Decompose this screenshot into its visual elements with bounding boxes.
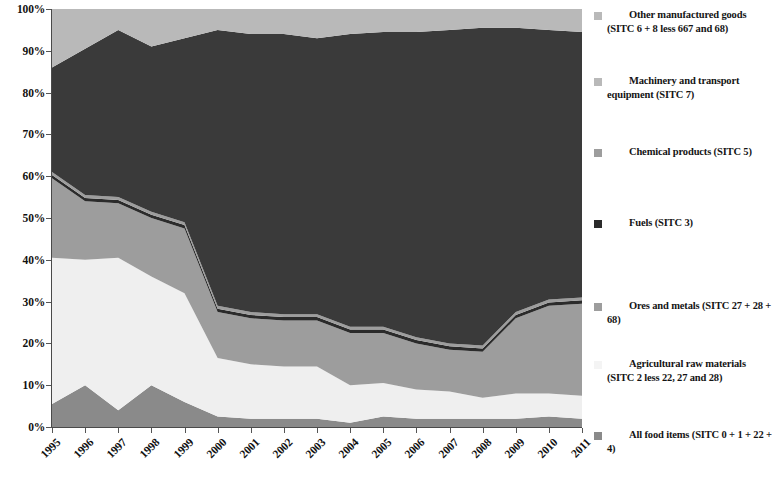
legend-item-label: All food items (SITC 0 + 1 + 22 + 4) (607, 428, 772, 455)
legend-swatch-icon (594, 432, 602, 440)
y-axis: 100%90%80%70%60%50%40%30%20%10%0% (0, 0, 52, 436)
legend-item-label: Chemical products (SITC 5) (607, 145, 772, 159)
x-axis-tick-label: 1997 (98, 436, 129, 467)
chart-page: 100%90%80%70%60%50%40%30%20%10%0% 199519… (0, 0, 772, 477)
x-axis-tick-mark (416, 428, 417, 433)
x-axis-tick-label: 1995 (31, 436, 62, 467)
x-axis-tick-label: 2009 (495, 436, 526, 467)
legend-item[interactable]: Chemical products (SITC 5) (590, 145, 772, 159)
x-axis-tick-label: 1999 (164, 436, 195, 467)
legend-swatch-icon (594, 12, 602, 20)
legend-item-label: Other manufactured goods (SITC 6 + 8 les… (607, 8, 772, 35)
legend-item[interactable]: Other manufactured goods (SITC 6 + 8 les… (590, 8, 772, 35)
legend-item[interactable]: Machinery and transport equipment (SITC … (590, 74, 772, 101)
legend-item-label: Machinery and transport equipment (SITC … (607, 74, 772, 101)
x-axis-tick-mark (85, 428, 86, 433)
x-axis-tick-label: 2002 (263, 436, 294, 467)
x-axis-tick-mark (383, 428, 384, 433)
x-axis-tick-mark (118, 428, 119, 433)
x-axis-tick-label: 2000 (197, 436, 228, 467)
legend-swatch-icon (594, 149, 602, 157)
y-axis-tick-label: 0% (28, 421, 45, 433)
legend-item-label: Ores and metals (SITC 27 + 28 + 68) (607, 299, 772, 326)
legend-swatch-icon (594, 361, 602, 369)
chart-legend: Other manufactured goods (SITC 6 + 8 les… (590, 0, 772, 477)
x-axis-tick-label: 2008 (462, 436, 493, 467)
y-axis-tick-label: 70% (23, 128, 45, 140)
y-axis-tick-label: 50% (23, 212, 45, 224)
x-axis-tick-label: 2007 (429, 436, 460, 467)
y-axis-tick-label: 90% (23, 45, 45, 57)
y-axis-tick-label: 10% (23, 379, 45, 391)
y-axis-tick-label: 20% (23, 337, 45, 349)
legend-swatch-icon (594, 78, 602, 86)
x-axis-tick-label: 2001 (230, 436, 261, 467)
x-axis-tick-label: 1996 (64, 436, 95, 467)
y-axis-tick-label: 80% (23, 87, 45, 99)
y-axis-tick-label: 40% (23, 254, 45, 266)
x-axis-tick-mark (450, 428, 451, 433)
legend-item[interactable]: All food items (SITC 0 + 1 + 22 + 4) (590, 428, 772, 455)
x-axis-tick-mark (185, 428, 186, 433)
x-axis-tick-label: 1998 (131, 436, 162, 467)
x-axis-tick-label: 2005 (363, 436, 394, 467)
legend-swatch-icon (594, 220, 602, 228)
x-axis-tick-mark (350, 428, 351, 433)
y-axis-tick-label: 60% (23, 170, 45, 182)
y-axis-tick-label: 30% (23, 296, 45, 308)
legend-swatch-icon (594, 303, 602, 311)
x-axis-tick-label: 2010 (528, 436, 559, 467)
x-axis-tick-mark (284, 428, 285, 433)
x-axis-tick-mark (317, 428, 318, 433)
x-axis-tick-mark (483, 428, 484, 433)
x-axis-tick-label: 2006 (396, 436, 427, 467)
legend-item-label: Agricultural raw materials (SITC 2 less … (607, 357, 772, 384)
x-axis-tick-mark (516, 428, 517, 433)
x-axis-tick-label: 2011 (561, 436, 592, 467)
legend-item[interactable]: Fuels (SITC 3) (590, 216, 772, 230)
x-axis-tick-mark (218, 428, 219, 433)
x-axis-tick-label: 2003 (296, 436, 327, 467)
x-axis-tick-mark (549, 428, 550, 433)
legend-item-label: Fuels (SITC 3) (607, 216, 772, 230)
plot-area (52, 9, 582, 427)
stacked-area-chart (52, 9, 582, 427)
legend-item[interactable]: Agricultural raw materials (SITC 2 less … (590, 357, 772, 384)
x-axis-tick-label: 2004 (329, 436, 360, 467)
x-axis-tick-mark (582, 428, 583, 433)
x-axis-tick-mark (251, 428, 252, 433)
x-axis-tick-mark (52, 428, 53, 433)
x-axis-tick-mark (151, 428, 152, 433)
x-axis: 1995199619971998199920002001200220032004… (52, 428, 582, 477)
y-axis-tick-label: 100% (17, 3, 45, 15)
legend-item[interactable]: Ores and metals (SITC 27 + 28 + 68) (590, 299, 772, 326)
